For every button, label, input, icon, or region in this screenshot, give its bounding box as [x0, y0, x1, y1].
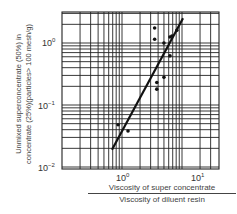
data-point [155, 87, 159, 91]
y-axis-label-line1: Unmixed superconcentrate (50%) in [14, 34, 23, 154]
y-axis-label: Unmixed superconcentrate (50%) in concen… [8, 24, 40, 164]
x-axis-label: Viscosity of super concentrate Viscosity… [82, 183, 237, 204]
data-point [170, 34, 174, 38]
y-tick-1e-1: 10−1 [38, 100, 55, 111]
x-axis-label-denominator: Viscosity of diluent resin [82, 194, 237, 204]
grid-lines [62, 12, 219, 169]
data-point [162, 41, 166, 45]
data-point [162, 75, 166, 79]
y-axis-label-line2: concentrate (25%)(particles> 100 mesh/g) [24, 24, 33, 164]
data-point [153, 37, 157, 41]
y-tick-1e0: 100 [42, 37, 55, 48]
x-axis-label-numerator: Viscosity of super concentrate [88, 183, 236, 194]
data-point [168, 54, 172, 58]
data-point [153, 26, 157, 30]
data-point [126, 129, 130, 133]
data-point [116, 123, 120, 127]
data-point [175, 29, 179, 33]
data-point [155, 81, 159, 85]
x-tick-1e0: 100 [116, 172, 129, 183]
y-tick-1e-2: 10−2 [38, 162, 55, 173]
x-tick-1e1: 101 [191, 172, 204, 183]
